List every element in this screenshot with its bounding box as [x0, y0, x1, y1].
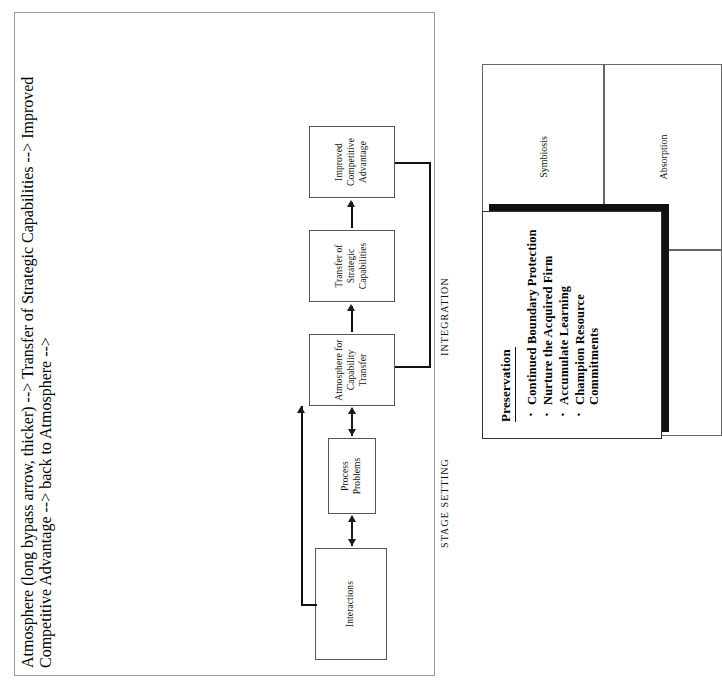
bypass-line-horizontal	[301, 406, 303, 606]
diagram-canvas: STAGE SETTING INTEGRATION Interactions P…	[19, 20, 431, 668]
node-interactions[interactable]: Interactions	[315, 548, 387, 660]
node-atmosphere-line2: Capability Transfer	[346, 337, 370, 403]
node-atmosphere-for-capability-transfer[interactable]: Atmosphere for Capability Transfer	[309, 334, 395, 406]
arrowhead-to-interactions	[348, 539, 356, 546]
preservation-bullet: Champion Resource Commitments	[573, 226, 601, 418]
node-improved-line3: Advantage	[357, 138, 369, 186]
node-process-problems-line1: Process	[340, 458, 352, 495]
node-process-problems-line2: Problems	[352, 458, 364, 495]
preservation-card[interactable]: Preservation Continued Boundary Protecti…	[482, 211, 662, 439]
node-interactions-label: Interactions	[345, 581, 357, 627]
arrowhead-to-transfer	[347, 304, 355, 311]
section-label-stage-setting: STAGE SETTING	[439, 458, 450, 548]
preservation-title: Preservation	[498, 347, 516, 422]
node-improved-line2: Competitive	[346, 138, 358, 186]
feedback-line-left-vertical	[395, 366, 431, 368]
arrowhead-to-atmosphere	[348, 407, 356, 414]
feedback-line-horizontal	[429, 162, 431, 368]
section-label-integration: INTEGRATION	[439, 277, 450, 356]
preservation-bullet-list: Continued Boundary Protection Nurture th…	[525, 226, 601, 422]
matrix-cell-absorption-label: Absorption	[657, 135, 668, 180]
preservation-bullet: Nurture the Acquired Firm	[541, 226, 555, 418]
preservation-bullet: Continued Boundary Protection	[525, 226, 539, 418]
arrowhead-to-improved	[347, 200, 355, 207]
feedback-line-right-vertical	[395, 162, 431, 164]
node-improved-line1: Improved	[334, 138, 346, 186]
node-process-problems[interactable]: Process Problems	[328, 438, 376, 514]
node-atmosphere-line1: Atmosphere for	[334, 337, 346, 403]
arrowhead-to-process-problems-2	[348, 429, 356, 436]
preservation-bullet: Accumulate Learning	[557, 226, 571, 418]
matrix-cell-symbiosis-label: Symbiosis	[537, 136, 548, 178]
figure-frame: STAGE SETTING INTEGRATION Interactions P…	[14, 12, 435, 676]
node-transfer-of-strategic-capabilities[interactable]: Transfer of Strategic Capabilities	[309, 230, 395, 302]
arrowhead-to-process-problems	[348, 515, 356, 522]
node-transfer-line2: Strategic Capabilities	[346, 233, 370, 299]
arrowhead-bypass-to-atmosphere	[297, 406, 305, 413]
node-improved-competitive-advantage[interactable]: Improved Competitive Advantage	[309, 126, 395, 198]
node-transfer-line1: Transfer of	[334, 233, 346, 299]
